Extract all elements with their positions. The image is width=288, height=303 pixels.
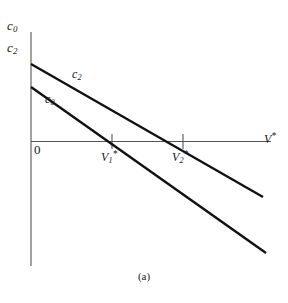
figure-container: c0 c2 0 c2 c0 V1* V2* V* (a) [0,0,288,303]
y-axis-label-c0: c0 [7,19,17,34]
x-axis-label: V* [264,132,276,145]
x-tick-label-v2: V2* [172,150,189,165]
curve-label-c0: c0 [45,93,55,107]
plot-canvas [0,0,288,303]
figure-caption: (a) [0,270,288,282]
curve-label-c2: c2 [72,68,82,82]
x-tick-label-v1: V1* [101,150,118,165]
curve-c2 [31,64,263,197]
curve-c0 [31,87,266,253]
origin-label: 0 [34,143,41,156]
y-axis-label-c2: c2 [7,41,17,56]
